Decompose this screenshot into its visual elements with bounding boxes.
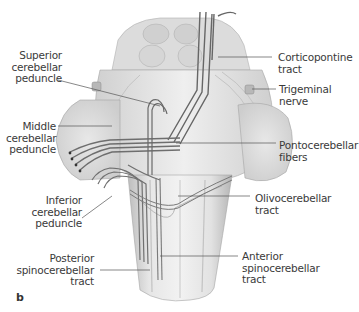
label-olivocerebellar-tract: Olivocerebellar tract <box>255 193 331 216</box>
label-middle-cerebellar-peduncle: Middle cerebellar peduncle <box>6 121 56 156</box>
brainstem-cerebellar-tracts-diagram: Superior cerebellar peduncle Middle cere… <box>0 0 359 312</box>
label-inferior-cerebellar-peduncle: Inferior cerebellar peduncle <box>20 195 82 230</box>
label-corticopontine-tract: Corticopontine tract <box>278 52 352 75</box>
label-trigeminal-nerve: Trigeminal nerve <box>279 84 331 107</box>
trigeminal-stub-right <box>245 85 254 94</box>
label-posterior-spinocerebellar-tract: Posterior spinocerebellar tract <box>14 253 94 288</box>
label-pontocerebellar-fibers: Pontocerebellar fibers <box>279 140 358 163</box>
midbrain <box>112 18 250 70</box>
label-superior-cerebellar-peduncle: Superior cerebellar peduncle <box>6 50 62 85</box>
label-anterior-spinocerebellar-tract: Anterior spinocerebellar tract <box>242 251 320 286</box>
panel-letter: b <box>16 291 24 304</box>
